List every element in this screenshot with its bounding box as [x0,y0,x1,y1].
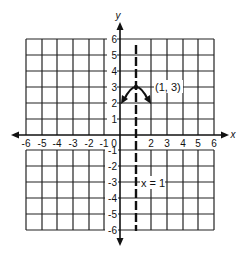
y-axis-up-arrow-icon [117,22,124,30]
vertex-point [134,85,138,89]
x-tick-minus-3: -3 [69,138,78,149]
y-tick-6: 6 [111,34,117,45]
point-annotation: (1, 3) [155,81,181,93]
x-tick-origin: 0 [111,138,117,149]
x-tick-5: 5 [195,138,201,149]
x-axis-right-arrow-icon [221,132,229,139]
y-tick-minus-6: -6 [108,225,117,236]
y-tick-5: 5 [111,50,117,61]
y-tick-3: 3 [111,82,117,93]
x-tick-6: 6 [211,138,217,149]
y-axis-down-arrow-icon [117,238,124,246]
x-tick-minus-1: -1 [100,138,109,149]
x-tick-minus-2: -2 [85,138,94,149]
x-tick-2: 2 [148,138,154,149]
y-tick-minus-5: -5 [108,209,117,220]
y-tick-minus-2: -2 [108,161,117,172]
coordinate-plane: 6 5 4 3 2 1 -1 -2 -3 -4 -5 -6 -6 -5 -4 -… [0,0,243,254]
y-tick-minus-4: -4 [108,193,117,204]
x-tick-minus-6: -6 [22,138,31,149]
y-tick-4: 4 [111,66,117,77]
line-annotation: x = 1 [141,177,165,189]
y-tick-minus-3: -3 [108,177,117,188]
x-tick-3: 3 [164,138,170,149]
x-tick-4: 4 [180,138,186,149]
y-tick-2: 2 [111,98,117,109]
x-axis-label: x [230,129,237,140]
y-tick-1: 1 [111,114,117,125]
x-axis-left-arrow-icon [11,132,19,139]
y-axis-label: y [115,10,122,21]
x-tick-minus-4: -4 [53,138,62,149]
x-tick-minus-5: -5 [38,138,47,149]
